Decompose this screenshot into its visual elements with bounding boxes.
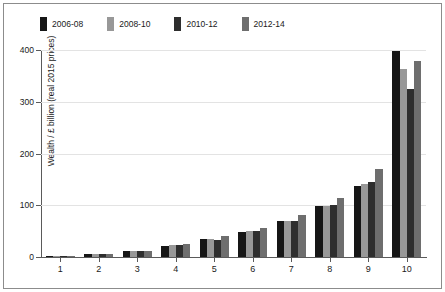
bar-2006-08-decile-1[interactable]: [46, 256, 53, 257]
legend-swatch-icon: [174, 17, 181, 31]
y-tick-label-200: 200: [8, 149, 34, 159]
bar-2008-10-decile-8[interactable]: [323, 206, 330, 257]
bar-2012-14-decile-7[interactable]: [298, 215, 305, 257]
legend-label: 2010-12: [186, 19, 217, 29]
bar-2008-10-decile-4[interactable]: [169, 245, 176, 257]
legend-label: 2008-10: [119, 19, 150, 29]
bar-2008-10-decile-2[interactable]: [92, 254, 99, 257]
y-tick-label-300: 300: [8, 97, 34, 107]
legend-item-2010-12[interactable]: 2010-12: [174, 17, 217, 31]
x-tick-mark-7: [291, 258, 292, 262]
y-tick-label-0: 0: [8, 252, 34, 262]
bar-2012-14-decile-3[interactable]: [144, 251, 151, 257]
bar-2010-12-decile-4[interactable]: [176, 245, 183, 257]
x-tick-label-1: 1: [58, 264, 63, 274]
legend-label: 2012-14: [254, 19, 285, 29]
legend-label: 2006-08: [52, 19, 83, 29]
plot-area: [41, 50, 426, 257]
bar-2006-08-decile-7[interactable]: [277, 221, 284, 257]
x-tick-label-8: 8: [327, 264, 332, 274]
bar-2010-12-decile-6[interactable]: [253, 231, 260, 257]
bar-2006-08-decile-3[interactable]: [123, 251, 130, 257]
y-tick-label-100: 100: [8, 200, 34, 210]
bar-2006-08-decile-8[interactable]: [315, 206, 322, 257]
x-tick-label-2: 2: [96, 264, 101, 274]
y-tick-label-400: 400: [8, 45, 34, 55]
bar-2008-10-decile-3[interactable]: [130, 251, 137, 257]
x-tick-label-5: 5: [212, 264, 217, 274]
x-tick-label-6: 6: [250, 264, 255, 274]
x-tick-mark-9: [368, 258, 369, 262]
bar-2012-14-decile-4[interactable]: [183, 244, 190, 257]
bar-2010-12-decile-7[interactable]: [291, 221, 298, 257]
bar-2012-14-decile-1[interactable]: [67, 256, 74, 257]
x-tick-mark-6: [253, 258, 254, 262]
bar-2006-08-decile-2[interactable]: [84, 254, 91, 257]
bar-group-decile-6: [238, 50, 267, 257]
bar-2008-10-decile-1[interactable]: [53, 256, 60, 257]
bar-group-decile-10: [392, 50, 421, 257]
chart-legend: 2006-082008-102010-122012-14: [40, 16, 309, 32]
x-tick-mark-1: [60, 258, 61, 262]
x-tick-label-4: 4: [173, 264, 178, 274]
bar-2008-10-decile-5[interactable]: [207, 239, 214, 257]
bar-2006-08-decile-6[interactable]: [238, 232, 245, 257]
bar-group-decile-5: [200, 50, 229, 257]
bar-2010-12-decile-3[interactable]: [137, 251, 144, 257]
y-tick-mark-300: [36, 102, 41, 103]
legend-item-2008-10[interactable]: 2008-10: [107, 17, 150, 31]
bar-group-decile-3: [123, 50, 152, 257]
bar-2010-12-decile-5[interactable]: [214, 240, 221, 257]
bar-2012-14-decile-9[interactable]: [375, 169, 382, 257]
bar-2010-12-decile-10[interactable]: [407, 89, 414, 257]
x-tick-label-7: 7: [289, 264, 294, 274]
bar-2006-08-decile-9[interactable]: [354, 186, 361, 257]
legend-swatch-icon: [107, 17, 114, 31]
x-tick-mark-3: [137, 258, 138, 262]
bar-2010-12-decile-1[interactable]: [60, 256, 67, 257]
bar-2010-12-decile-8[interactable]: [330, 205, 337, 257]
bar-2012-14-decile-10[interactable]: [414, 61, 421, 257]
y-axis-tick-labels: 0100200300400: [6, 0, 34, 292]
bar-2010-12-decile-9[interactable]: [368, 182, 375, 257]
x-tick-mark-8: [330, 258, 331, 262]
bar-2008-10-decile-6[interactable]: [246, 231, 253, 257]
bar-2012-14-decile-5[interactable]: [221, 236, 228, 257]
bar-group-decile-4: [161, 50, 190, 257]
y-tick-mark-200: [36, 154, 41, 155]
bar-group-decile-9: [354, 50, 383, 257]
bar-2006-08-decile-4[interactable]: [161, 246, 168, 257]
bar-2012-14-decile-2[interactable]: [106, 254, 113, 257]
bar-2008-10-decile-9[interactable]: [361, 184, 368, 257]
bar-2012-14-decile-6[interactable]: [260, 228, 267, 257]
x-tick-mark-10: [407, 258, 408, 262]
x-tick-mark-5: [214, 258, 215, 262]
bar-2008-10-decile-10[interactable]: [400, 69, 407, 257]
x-tick-label-3: 3: [135, 264, 140, 274]
bar-2010-12-decile-2[interactable]: [99, 254, 106, 257]
legend-swatch-icon: [242, 17, 249, 31]
x-tick-label-10: 10: [402, 264, 412, 274]
y-tick-mark-100: [36, 205, 41, 206]
y-tick-mark-0: [36, 257, 41, 258]
bar-group-decile-1: [46, 50, 75, 257]
x-tick-mark-4: [176, 258, 177, 262]
bar-2012-14-decile-8[interactable]: [337, 198, 344, 257]
bar-group-decile-8: [315, 50, 344, 257]
x-tick-mark-2: [99, 258, 100, 262]
bar-group-decile-7: [277, 50, 306, 257]
y-tick-mark-400: [36, 50, 41, 51]
bar-2008-10-decile-7[interactable]: [284, 221, 291, 257]
bar-group-decile-2: [84, 50, 113, 257]
bar-2006-08-decile-10[interactable]: [392, 51, 399, 257]
bar-2006-08-decile-5[interactable]: [200, 239, 207, 257]
x-tick-label-9: 9: [366, 264, 371, 274]
chart-figure: 2006-082008-102010-122012-14 Wealth / £ …: [0, 0, 445, 292]
legend-item-2012-14[interactable]: 2012-14: [242, 17, 285, 31]
